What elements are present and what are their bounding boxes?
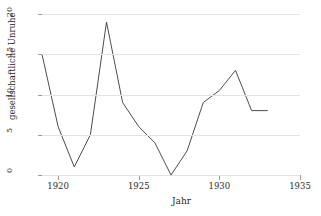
y-tick-label-wrap-10: 10 [6, 88, 32, 102]
y-tick-mark-20 [38, 14, 42, 15]
y-tick-label-10: 10 [6, 88, 32, 98]
x-tick-mark-1935 [300, 176, 301, 180]
y-tick-label-5: 5 [6, 128, 32, 133]
cropped-title-sliver: ··· ··· ··· [130, 0, 192, 3]
x-axis-label: Jahr [0, 197, 321, 206]
y-tick-label-20: 20 [6, 7, 32, 17]
y-tick-label-wrap-20: 20 [6, 7, 32, 21]
chart-figure: ··· ··· ··· gesellschaftliche Unruhe 051… [0, 0, 321, 216]
y-tick-mark-10 [38, 95, 42, 96]
x-tick-label-1930: 1930 [199, 182, 239, 191]
x-tick-mark-1930 [219, 176, 220, 180]
series-polyline [42, 22, 268, 175]
x-tick-label-1935: 1935 [280, 182, 320, 191]
gridline-y-15 [42, 54, 300, 55]
y-tick-label-wrap-0: 0 [6, 168, 32, 182]
x-tick-label-1925: 1925 [119, 182, 159, 191]
y-tick-mark-0 [38, 175, 42, 176]
y-tick-label-0: 0 [6, 168, 32, 173]
gridline-y-0 [42, 175, 300, 176]
y-axis-label: gesellschaftliche Unruhe [8, 0, 17, 141]
y-tick-mark-5 [38, 135, 42, 136]
y-tick-label-wrap-15: 15 [6, 47, 32, 61]
x-tick-mark-1925 [139, 176, 140, 180]
y-tick-label-15: 15 [6, 47, 32, 57]
y-tick-mark-15 [38, 54, 42, 55]
x-tick-label-1920: 1920 [38, 182, 78, 191]
x-tick-mark-1920 [58, 176, 59, 180]
y-tick-label-wrap-5: 5 [6, 128, 32, 142]
gridline-y-5 [42, 135, 300, 136]
gridline-y-20 [42, 14, 300, 15]
gridline-y-10 [42, 95, 300, 96]
